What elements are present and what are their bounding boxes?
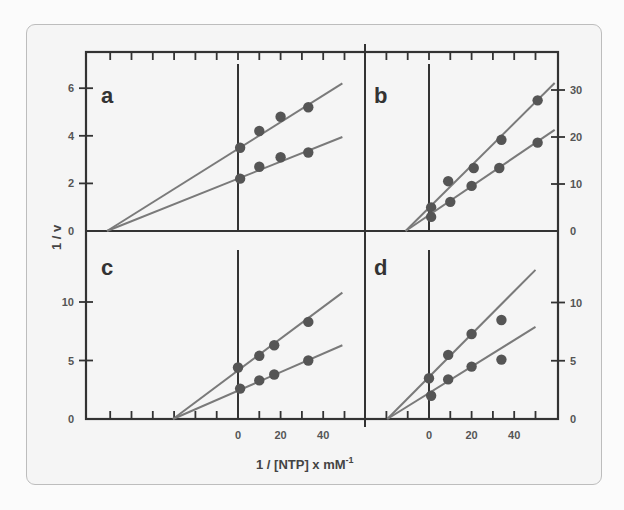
x-tick-label: 40 <box>508 429 520 441</box>
data-point <box>496 135 506 145</box>
panel-label-a: a <box>101 83 114 108</box>
data-point <box>532 95 542 105</box>
x-tick-label: 0 <box>426 429 432 441</box>
data-point <box>466 181 476 191</box>
x-axis-title-superscript: -1 <box>346 455 354 465</box>
y-tick-label: 10 <box>62 296 74 308</box>
data-point <box>466 329 476 339</box>
data-point <box>269 369 279 379</box>
y-tick-label: 0 <box>570 413 576 425</box>
y-tick-label: 0 <box>68 413 74 425</box>
data-point <box>269 340 279 350</box>
plot-frame <box>86 52 558 419</box>
y-tick-label: 2 <box>68 177 74 189</box>
data-point <box>303 317 313 327</box>
data-point <box>443 374 453 384</box>
x-axis-title-main: 1 / [NTP] x mM <box>256 457 346 472</box>
data-point <box>275 112 285 122</box>
y-tick-label: 0 <box>570 225 576 237</box>
x-tick-label: 40 <box>317 429 329 441</box>
data-point <box>494 163 504 173</box>
data-point <box>235 143 245 153</box>
data-point <box>445 197 455 207</box>
x-tick-label: 20 <box>274 429 286 441</box>
data-point <box>254 162 264 172</box>
data-point <box>426 391 436 401</box>
y-tick-label: 5 <box>68 355 74 367</box>
fit-line-lower <box>387 327 535 419</box>
data-point <box>469 163 479 173</box>
panel-label-d: d <box>374 255 387 280</box>
panel-label-c: c <box>101 255 113 280</box>
y-tick-label: 4 <box>68 130 75 142</box>
fit-line-upper <box>387 270 535 419</box>
x-tick-label: 0 <box>235 429 241 441</box>
x-tick-label: 20 <box>465 429 477 441</box>
data-point <box>254 351 264 361</box>
y-tick-label: 0 <box>68 225 74 237</box>
data-point <box>466 361 476 371</box>
data-point <box>233 362 243 372</box>
data-point <box>235 383 245 393</box>
y-tick-label: 20 <box>570 131 582 143</box>
data-point <box>235 173 245 183</box>
data-point <box>303 147 313 157</box>
y-tick-label: 6 <box>68 82 74 94</box>
data-point <box>426 212 436 222</box>
data-point <box>443 176 453 186</box>
data-point <box>254 126 264 136</box>
y-tick-label: 10 <box>570 178 582 190</box>
panel-label-b: b <box>374 83 387 108</box>
data-point <box>443 350 453 360</box>
y-axis-title: 1 / v <box>49 224 64 250</box>
x-axis-title: 1 / [NTP] x mM-1 <box>256 455 354 472</box>
data-point <box>303 102 313 112</box>
data-point <box>496 315 506 325</box>
data-point <box>424 373 434 383</box>
y-tick-label: 10 <box>570 297 582 309</box>
kinetics-figure: 02460102030051002040051002040 a b c d 1 … <box>0 0 624 510</box>
y-tick-label: 30 <box>570 84 582 96</box>
data-point <box>532 137 542 147</box>
data-point <box>496 354 506 364</box>
data-point <box>303 355 313 365</box>
y-tick-label: 5 <box>570 355 576 367</box>
data-point <box>254 375 264 385</box>
data-point <box>275 152 285 162</box>
